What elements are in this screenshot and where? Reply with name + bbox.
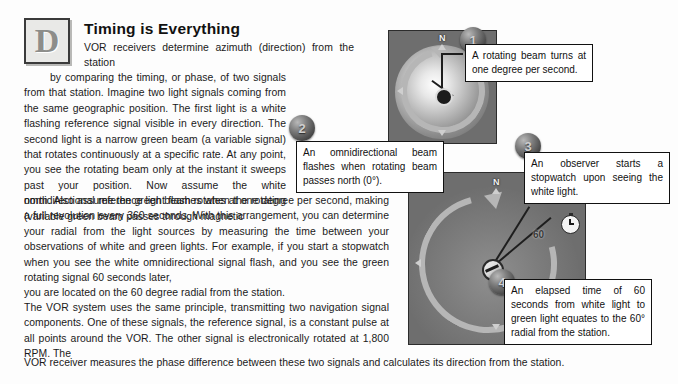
callout-badge-2: 2	[289, 115, 315, 141]
south-tick-bottom	[492, 324, 500, 330]
page-canvas: D Timing is Everything VOR receivers det…	[0, 0, 678, 384]
vor-system-text: The VOR system uses the same principle, …	[24, 302, 389, 359]
body-paragraph-vor-system: The VOR system uses the same principle, …	[24, 300, 389, 362]
south-tick-top	[438, 130, 446, 136]
dropcap-icon: D	[24, 18, 70, 64]
body-paragraph-continued: north. Also assume the green beam rotate…	[24, 193, 389, 301]
body-paragraph-lead: VOR receivers determine azimuth (directi…	[84, 40, 354, 71]
dropcap-letter: D	[35, 24, 60, 58]
reference-needle-horizontal	[441, 53, 463, 55]
callout-box-4: An elapsed time of 60 seconds from white…	[504, 279, 652, 345]
stopwatch-hand-hour	[569, 223, 574, 225]
body-paragraph-final: VOR receiver measures the phase differen…	[24, 355, 664, 370]
north-label-bottom: N	[493, 177, 500, 187]
north-tick-bottom	[492, 188, 500, 194]
callout-box-3: An observer starts a stopwatch upon seei…	[524, 152, 670, 204]
north-tick-top	[438, 44, 446, 50]
continued-text: north. Also assume the green beam rotate…	[24, 195, 389, 283]
stopwatch-icon	[561, 215, 580, 234]
degree-label-60: 60	[533, 229, 544, 240]
page-title: Timing is Everything	[84, 20, 240, 38]
vor-station-hub-top	[435, 88, 453, 106]
stopwatch-stem	[569, 213, 573, 216]
continued-last-line: you are located on the 60 degree radial …	[24, 285, 389, 300]
west-tick-top	[397, 87, 403, 95]
west-tick-bottom	[415, 259, 421, 267]
callout-box-2: An omnidirectional beam flashes when rot…	[296, 141, 444, 193]
lead-sentence: VOR receivers determine azimuth (directi…	[84, 42, 354, 68]
final-line-text: VOR receiver measures the phase differen…	[24, 357, 564, 368]
north-label-top: N	[439, 33, 446, 43]
callout-box-1: A rotating beam turns at one degree per …	[465, 44, 593, 82]
